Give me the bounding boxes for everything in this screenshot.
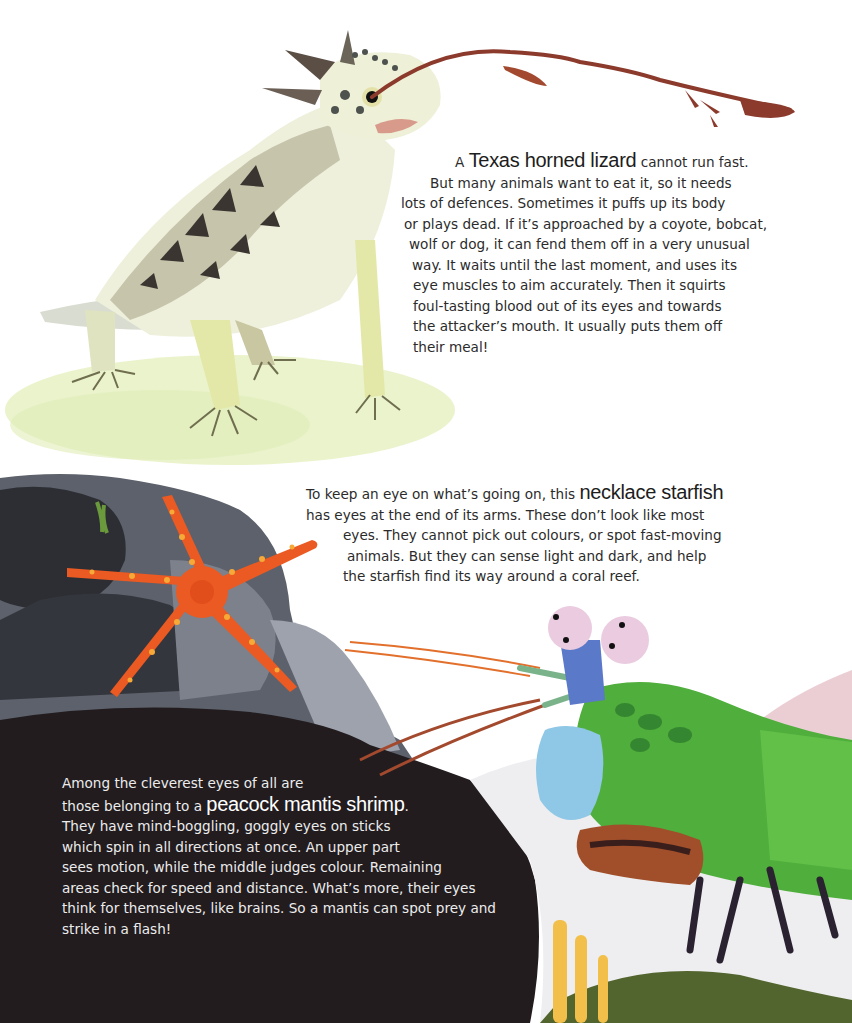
lizard-heading: Texas horned lizard	[469, 149, 637, 171]
shrimp-paragraph: Among the cleverest eyes of all are thos…	[62, 773, 496, 939]
text-line: way. It waits until the last moment, and…	[400, 255, 767, 276]
text-line: lots of defences. Sometimes it puffs up …	[400, 193, 767, 214]
text-line: the starfish find its way around a coral…	[306, 566, 723, 587]
lizard-line-0: A Texas horned lizard cannot run fast.	[400, 150, 767, 173]
text-line: eye muscles to aim accurately. Then it s…	[400, 275, 767, 296]
text-line: the attacker’s mouth. It usually puts th…	[400, 316, 767, 337]
text-line: or plays dead. If it’s approached by a c…	[400, 214, 767, 235]
text-run: A	[455, 154, 469, 170]
shrimp-eye-left	[548, 606, 592, 650]
text-line: sees motion, while the middle judges col…	[62, 857, 496, 878]
shrimp-heading: peacock mantis shrimp	[206, 793, 404, 815]
shrimp-eye-right	[601, 616, 649, 664]
text-line: animals. But they can sense light and da…	[306, 546, 723, 567]
text-line: strike in a flash!	[62, 919, 496, 940]
text-run: To keep an eye on what’s going on, this	[306, 486, 579, 502]
starfish-paragraph: To keep an eye on what’s going on, this …	[306, 482, 723, 587]
text-line: wolf or dog, it can fend them off in a v…	[400, 234, 767, 255]
text-line: Among the cleverest eyes of all are	[62, 773, 496, 794]
text-run: those belonging to a	[62, 798, 206, 814]
text-line: eyes. They cannot pick out colours, or s…	[306, 525, 723, 546]
shrimp-line-1: those belonging to a peacock mantis shri…	[62, 794, 496, 817]
text-line: which spin in all directions at once. An…	[62, 837, 496, 858]
text-line: their meal!	[400, 337, 767, 358]
starfish-heading: necklace starfish	[579, 481, 723, 503]
text-line: foul-tasting blood out of its eyes and t…	[400, 296, 767, 317]
text-line: They have mind-boggling, goggly eyes on …	[62, 816, 496, 837]
starfish-line-0: To keep an eye on what’s going on, this …	[306, 482, 723, 505]
text-run: cannot run fast.	[636, 154, 748, 170]
text-line: But many animals want to eat it, so it n…	[400, 173, 767, 194]
text-line: areas check for speed and distance. What…	[62, 878, 496, 899]
text-line: has eyes at the end of its arms. These d…	[306, 505, 723, 526]
lizard-paragraph: A Texas horned lizard cannot run fast. B…	[400, 150, 767, 357]
text-line: think for themselves, like brains. So a …	[62, 898, 496, 919]
text-run: .	[405, 798, 409, 814]
